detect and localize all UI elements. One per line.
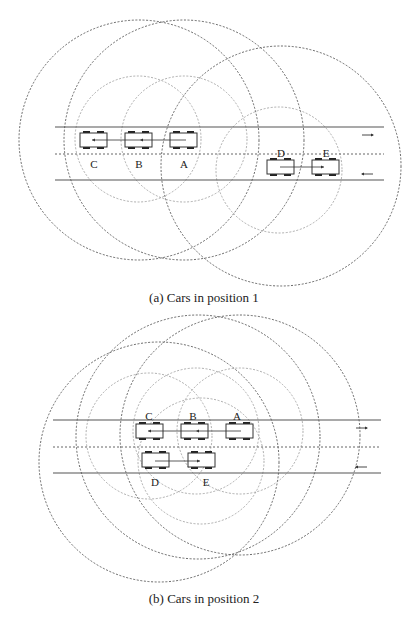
car-label: C (145, 410, 152, 422)
caption-position-2: (b) Cars in position 2 (0, 591, 408, 607)
arrow-right-icon (356, 427, 368, 430)
car-label: A (180, 158, 188, 170)
arrow-left-icon (361, 173, 373, 176)
car-label: B (135, 158, 142, 170)
arrow-right-icon (362, 134, 374, 137)
car-e (188, 451, 215, 469)
car-label: E (323, 147, 330, 159)
car-label: B (189, 410, 196, 422)
figure-position-2: CBADE (39, 315, 381, 582)
car-label: E (203, 476, 210, 488)
car-label: C (90, 158, 97, 170)
caption-position-1: (a) Cars in position 1 (0, 290, 408, 306)
vehicle-network-diagram: CBADE CBADE (0, 0, 408, 618)
car-label: D (277, 147, 285, 159)
car-label: D (151, 476, 159, 488)
car-label: A (233, 410, 241, 422)
figure-position-1: CBADE (19, 20, 401, 286)
car-d (142, 451, 169, 469)
arrow-left-icon (355, 466, 367, 469)
